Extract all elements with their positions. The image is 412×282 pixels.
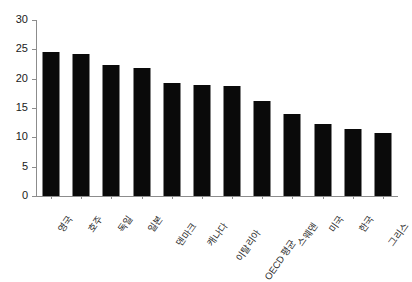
bar [163, 83, 180, 196]
x-axis-category-label: 영국 [55, 213, 74, 234]
x-axis-category-label-text: 미국 [327, 213, 346, 234]
bar [344, 129, 361, 196]
bar-slot [96, 20, 126, 196]
x-axis-category-label: 덴마크 [174, 221, 198, 249]
y-axis-tick-mark [32, 196, 36, 197]
bar [284, 114, 301, 196]
y-axis-tick-label: 30 [16, 13, 28, 26]
bar [254, 101, 271, 196]
x-axis-category-label-text: 캐나다 [205, 221, 229, 249]
bar [73, 54, 90, 196]
x-axis-category-label: 캐나다 [205, 221, 229, 249]
bar-slot [308, 20, 338, 196]
bar [43, 52, 60, 196]
x-axis-category-label: 한국 [357, 213, 376, 234]
x-axis-category-label: 그리스 [386, 221, 410, 249]
bar-slot [247, 20, 277, 196]
x-axis-category-label-text: 호주 [85, 213, 104, 234]
y-axis-tick-label: 20 [16, 72, 28, 85]
y-axis-tick-label: 10 [16, 130, 28, 143]
x-axis-category-label-text: 이탈리아 [234, 228, 263, 263]
x-axis-category-label: 호주 [85, 213, 104, 234]
bar-slot [157, 20, 187, 196]
bar-slot [66, 20, 96, 196]
x-axis-category-label-text: 그리스 [386, 221, 410, 249]
x-axis-category-label: 스웨덴 [295, 221, 319, 249]
x-axis-category-label: 이탈리아 [234, 228, 263, 263]
x-axis-category-label-text: 덴마크 [174, 221, 198, 249]
bar-slot [368, 20, 398, 196]
bar-slot [127, 20, 157, 196]
bar [314, 124, 331, 196]
y-axis-tick-label: 25 [16, 42, 28, 55]
x-axis-category-label: 미국 [327, 213, 346, 234]
x-axis-category-label-text: 스웨덴 [295, 221, 319, 249]
bar-slot [217, 20, 247, 196]
x-axis-category-label: 독일 [115, 213, 134, 234]
bar [133, 68, 150, 196]
x-axis-category-label-text: OECD 평균 [262, 237, 298, 282]
y-axis-tick-label: 5 [22, 160, 28, 173]
x-axis-labels: 영국호주독일일본덴마크캐나다이탈리아OECD 평균스웨덴미국한국그리스 [36, 199, 398, 252]
bar [224, 86, 241, 196]
x-axis-category-label-text: 영국 [55, 213, 74, 234]
x-axis-category-label: 일본 [146, 213, 165, 234]
bars-layer [36, 20, 398, 196]
x-axis-category-label: OECD 평균 [262, 237, 298, 282]
x-axis-category-label-text: 한국 [357, 213, 376, 234]
bar-slot [187, 20, 217, 196]
x-axis-category-label-text: 독일 [115, 213, 134, 234]
bar [193, 85, 210, 196]
bar [103, 65, 120, 196]
bar-slot [36, 20, 66, 196]
bar-slot [277, 20, 307, 196]
y-axis-tick-label: 0 [22, 189, 28, 202]
bar [374, 133, 391, 196]
y-axis-tick-label: 15 [16, 101, 28, 114]
x-axis-line [36, 196, 398, 197]
x-axis-category-label-text: 일본 [146, 213, 165, 234]
bar-slot [338, 20, 368, 196]
